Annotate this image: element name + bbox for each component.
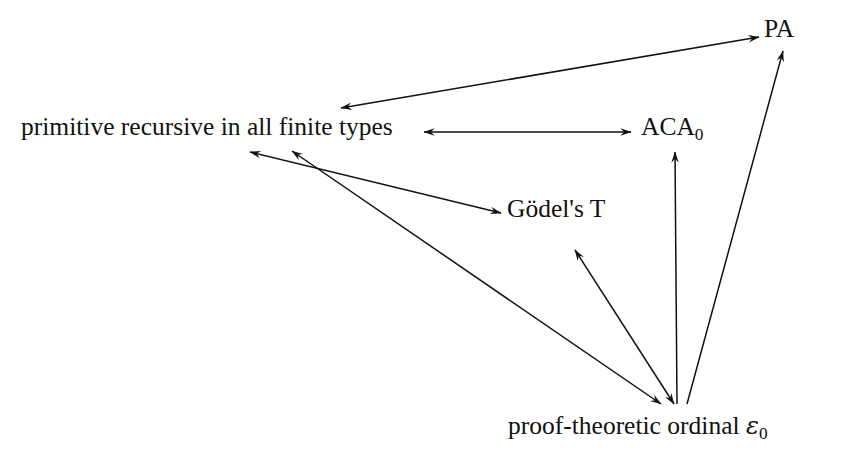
edge-epsilon0-aca0	[675, 152, 677, 404]
node-primitive-recursive: primitive recursive in all finite types	[21, 114, 393, 140]
node-primitive-recursive-label: primitive recursive in all finite types	[21, 112, 393, 141]
edge-primitive-recursive-epsilon0	[292, 151, 661, 404]
node-epsilon0-subscript: 0	[759, 424, 768, 443]
diagram-edges-layer	[0, 0, 843, 465]
node-pa-label: PA	[764, 14, 794, 43]
node-pa: PA	[764, 16, 794, 42]
edge-epsilon0-pa	[687, 51, 783, 404]
edge-primitive-recursive-pa	[341, 37, 759, 108]
edge-primitive-recursive-godels-t	[250, 152, 501, 213]
epsilon-symbol: ε	[746, 412, 759, 440]
node-godels-t-label: Gödel's T	[507, 194, 605, 223]
edge-godels-t-epsilon0	[575, 250, 674, 404]
node-epsilon0-label: proof-theoretic ordinal	[508, 411, 746, 440]
diagram-canvas: primitive recursive in all finite types …	[0, 0, 843, 465]
node-aca0: ACA0	[641, 114, 704, 143]
node-godels-t: Gödel's T	[507, 196, 605, 222]
node-aca0-subscript: 0	[695, 125, 704, 144]
node-epsilon0: proof-theoretic ordinal ε0	[508, 413, 768, 442]
node-aca0-label: ACA	[641, 112, 695, 141]
